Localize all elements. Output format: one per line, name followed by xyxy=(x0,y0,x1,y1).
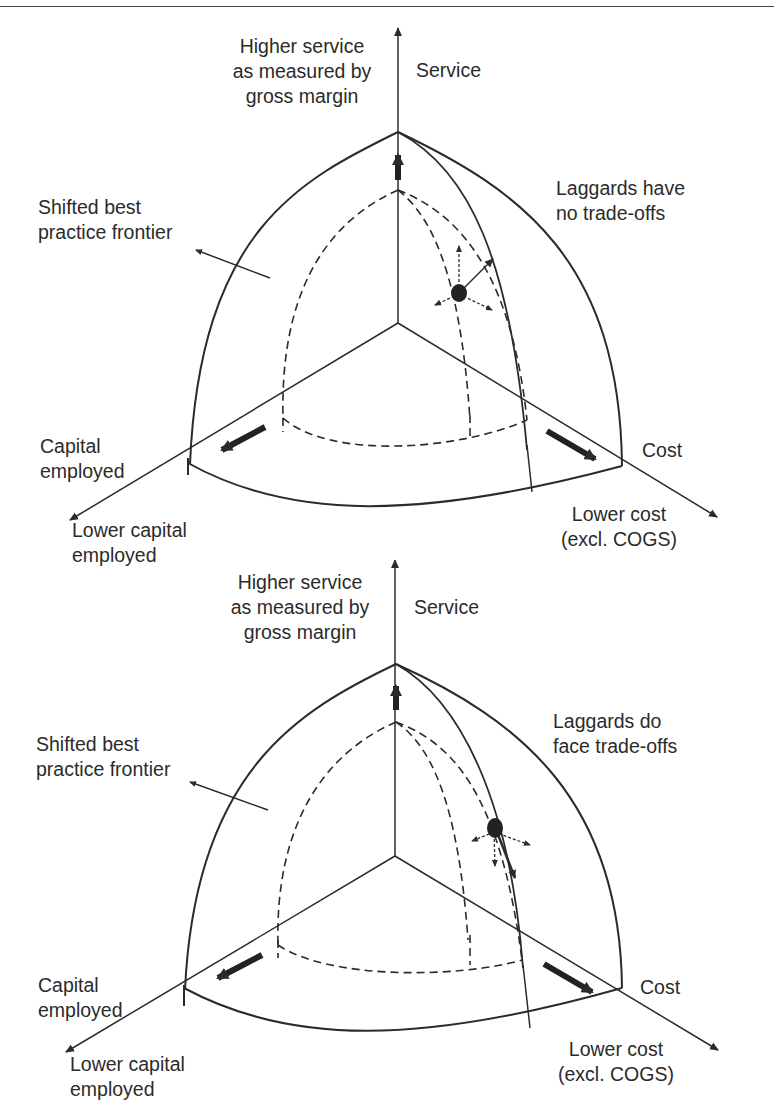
cost-desc: Lower cost (excl. COGS) xyxy=(551,1037,681,1087)
capital-desc: Lower capital employed xyxy=(70,1052,185,1102)
frontier-label: Shifted best practice frontier xyxy=(36,732,170,782)
service-desc: Higher service as measured by gross marg… xyxy=(220,570,380,645)
cost-axis xyxy=(395,856,718,1050)
cost-label: Cost xyxy=(640,975,680,1000)
capital-label: Capital employed xyxy=(40,434,125,484)
outer-frontier xyxy=(184,664,396,1006)
cost-label: Cost xyxy=(642,438,682,463)
frontier-pointer xyxy=(196,250,270,278)
cost-axis xyxy=(398,323,717,517)
service-label: Service xyxy=(414,595,479,620)
frontier-diagram-bottom xyxy=(0,560,774,1118)
service-label: Service xyxy=(416,58,481,83)
laggard-point xyxy=(451,284,467,302)
laggard-label: Laggards do face trade-offs xyxy=(553,709,677,759)
cost-desc: Lower cost (excl. COGS) xyxy=(554,502,684,552)
middle-frontier xyxy=(396,664,523,968)
capital-label: Capital employed xyxy=(38,973,123,1023)
laggard-label: Laggards have no trade-offs xyxy=(556,176,685,226)
capital-axis xyxy=(70,323,398,520)
laggard-point xyxy=(487,818,503,838)
outer-frontier xyxy=(188,132,398,475)
frontier-label: Shifted best practice frontier xyxy=(38,195,172,245)
service-desc: Higher service as measured by gross marg… xyxy=(222,34,382,109)
